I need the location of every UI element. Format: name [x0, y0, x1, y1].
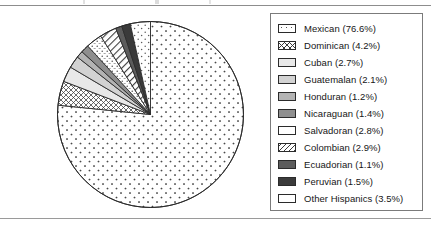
legend-swatch-ecuadorian: [278, 160, 296, 169]
legend-label-salvadoran: Salvadoran (2.8%): [304, 126, 384, 136]
legend-label-peruvian: Peruvian (1.5%): [304, 177, 373, 187]
legend-swatch-honduran: [278, 92, 296, 101]
legend-item-ecuadorian[interactable]: Ecuadorian (1.1%): [278, 156, 422, 173]
legend-swatch-guatemalan: [278, 75, 296, 84]
legend-label-dominican: Dominican (4.2%): [304, 41, 380, 51]
legend-swatch-salvadoran: [278, 126, 296, 135]
legend-box: Mexican (76.6%) Dominican (4.2%) Cuban (…: [270, 13, 423, 211]
legend-label-colombian: Colombian (2.9%): [304, 143, 381, 153]
legend-label-nicaraguan: Nicaraguan (1.4%): [304, 109, 384, 119]
legend-label-mexican: Mexican (76.6%): [304, 24, 376, 34]
pie-chart-svg: [56, 20, 245, 209]
legend-label-other-hispanics: Other Hispanics (3.5%): [304, 194, 403, 204]
top-horizontal-rule: [0, 5, 431, 6]
figure-page: Mexican (76.6%) Dominican (4.2%) Cuban (…: [0, 0, 431, 227]
legend-label-ecuadorian: Ecuadorian (1.1%): [304, 160, 384, 170]
pie-slice-group: [58, 22, 244, 208]
legend-item-other-hispanics[interactable]: Other Hispanics (3.5%): [278, 190, 422, 207]
legend-label-cuban: Cuban (2.7%): [304, 58, 363, 68]
legend-swatch-colombian: [278, 143, 296, 152]
legend-item-nicaraguan[interactable]: Nicaraguan (1.4%): [278, 105, 422, 122]
legend-swatch-dominican: [278, 41, 296, 50]
bottom-horizontal-rule: [0, 218, 431, 219]
legend-item-cuban[interactable]: Cuban (2.7%): [278, 54, 422, 71]
legend-label-honduran: Honduran (1.2%): [304, 92, 377, 102]
legend-item-guatemalan[interactable]: Guatemalan (2.1%): [278, 71, 422, 88]
legend-swatch-cuban: [278, 58, 296, 67]
legend-label-guatemalan: Guatemalan (2.1%): [304, 75, 387, 85]
legend-item-colombian[interactable]: Colombian (2.9%): [278, 139, 422, 156]
legend-swatch-peruvian: [278, 177, 296, 186]
legend-item-mexican[interactable]: Mexican (76.6%): [278, 20, 422, 37]
legend-swatch-nicaraguan: [278, 109, 296, 118]
legend-swatch-mexican: [278, 24, 296, 33]
legend-swatch-other-hispanics: [278, 194, 296, 203]
legend-item-honduran[interactable]: Honduran (1.2%): [278, 88, 422, 105]
cropped-caption-artifact: [58, 0, 268, 4]
legend-item-salvadoran[interactable]: Salvadoran (2.8%): [278, 122, 422, 139]
legend-item-dominican[interactable]: Dominican (4.2%): [278, 37, 422, 54]
legend-item-peruvian[interactable]: Peruvian (1.5%): [278, 173, 422, 190]
pie-chart: [56, 20, 245, 209]
